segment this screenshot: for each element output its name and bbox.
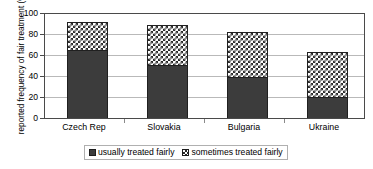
plot-area xyxy=(44,13,365,119)
legend-label-usually: usually treated fairly xyxy=(98,148,174,157)
bar-segment-usually-ukraine xyxy=(307,97,348,118)
bar-segment-usually-bulgaria xyxy=(227,77,268,118)
bar-group-ukraine xyxy=(307,52,348,118)
bar-segment-usually-czech-rep xyxy=(67,50,108,118)
y-tick-label-100: 100 xyxy=(8,9,38,18)
bar-segment-sometimes-bulgaria xyxy=(227,32,268,78)
y-tick-label-40: 40 xyxy=(8,72,38,81)
solid-dark-swatch-icon xyxy=(89,149,96,156)
y-tick-label-80: 80 xyxy=(8,30,38,39)
bar-group-bulgaria xyxy=(227,32,268,118)
y-tick-label-0: 0 xyxy=(8,114,38,123)
bar-segment-usually-slovakia xyxy=(147,65,188,118)
chart-legend: usually treated fairly sometimes treated… xyxy=(84,145,288,160)
bar-segment-sometimes-czech-rep xyxy=(67,22,108,50)
bar-segment-sometimes-ukraine xyxy=(307,52,348,97)
checkered-swatch-icon xyxy=(182,149,189,156)
bar-group-czech-rep xyxy=(67,22,108,118)
stacked-bar-chart: reported frequency of fair treatment (%)… xyxy=(0,0,373,169)
legend-item-usually: usually treated fairly xyxy=(89,148,174,157)
bar-segment-sometimes-slovakia xyxy=(147,25,188,65)
bar-group-slovakia xyxy=(147,25,188,118)
y-tick-label-20: 20 xyxy=(8,93,38,102)
legend-item-sometimes: sometimes treated fairly xyxy=(182,148,282,157)
legend-label-sometimes: sometimes treated fairly xyxy=(191,148,282,157)
x-tick-label-ukraine: Ukraine xyxy=(276,122,372,132)
y-tick-label-60: 60 xyxy=(8,51,38,60)
